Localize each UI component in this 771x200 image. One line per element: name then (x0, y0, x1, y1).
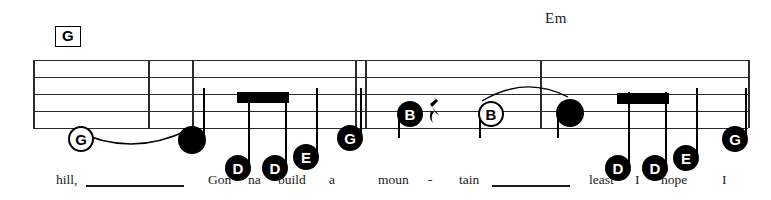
lyric-hill: hill, (56, 172, 77, 200)
note-d-2-stem (285, 92, 287, 168)
lyric-gon: Gon - (208, 172, 239, 200)
barline-3 (192, 60, 194, 128)
lyric-tain: tain (459, 172, 479, 200)
lyric-tain-extender (492, 185, 570, 187)
chord-g: G (55, 26, 81, 47)
staff-line-1 (33, 60, 748, 61)
sheet-music-excerpt: GEm GDDEGBBDDEG hill,Gon -nabuildamoun-t… (0, 0, 771, 200)
note-b-open-1: B (478, 101, 504, 127)
lyric-hyph: - (428, 172, 433, 200)
barline-6 (540, 60, 542, 128)
slur-2 (480, 77, 570, 103)
note-b-1: B (397, 101, 423, 127)
lyric-hill-extender (86, 185, 184, 187)
chord-em: Em (545, 10, 567, 27)
quarter-rest (428, 92, 442, 131)
lyric-i-1: I (635, 172, 640, 200)
beam-1 (237, 92, 289, 103)
staff-line-5 (33, 128, 748, 129)
lyric-hope: hope (661, 172, 687, 200)
note-e-2: E (673, 145, 699, 171)
barline-5 (365, 60, 367, 128)
barline-2 (148, 60, 150, 128)
beam-2 (617, 93, 669, 104)
note-e-1-stem (316, 88, 318, 157)
lyric-na: na (248, 172, 261, 200)
lyric-moun: moun (378, 172, 409, 200)
lyric-a: a (329, 172, 335, 200)
quarter-rest-icon (428, 92, 442, 126)
lyric-build: build (278, 172, 306, 200)
staff-line-2 (33, 77, 748, 78)
note-e-2-stem (696, 88, 698, 158)
note-g-2: G (722, 126, 748, 152)
staff-line-4 (33, 111, 748, 112)
note-g-1: G (337, 125, 363, 151)
barline-1 (33, 60, 35, 128)
note-g-open-1: G (68, 126, 94, 152)
note-filled-1 (178, 126, 206, 154)
lyric-i-2: I (722, 172, 727, 200)
barline-4 (355, 60, 357, 128)
note-d-1-stem (248, 92, 250, 168)
lyric-least: least (589, 172, 614, 200)
barline-7 (748, 60, 750, 128)
note-filled-2 (556, 99, 584, 127)
note-e-1: E (293, 144, 319, 170)
